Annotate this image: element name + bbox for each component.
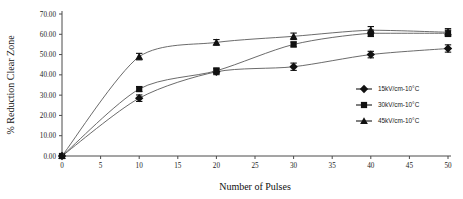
- y-tick-label: 60.00: [40, 31, 57, 39]
- x-axis-tick-group: 05101520253035404550: [60, 156, 452, 170]
- x-tick-label: 40: [367, 162, 375, 170]
- x-tick-label: 45: [406, 162, 414, 170]
- marker-diamond: [360, 85, 368, 93]
- x-tick-label: 20: [213, 162, 221, 170]
- y-tick-label: 10.00: [40, 132, 57, 140]
- series-layer: [58, 26, 452, 160]
- y-tick-label: 40.00: [40, 71, 57, 79]
- chart-legend: 15kV/cm-10°C30kV/cm-10°C45kV/cm-10°C: [356, 85, 420, 124]
- x-axis-title: Number of Pulses: [219, 181, 291, 192]
- legend-label: 15kV/cm-10°C: [378, 85, 420, 92]
- marker-square: [291, 41, 297, 47]
- x-tick-label: 25: [251, 162, 259, 170]
- x-tick-label: 35: [329, 162, 337, 170]
- y-tick-label: 20.00: [40, 112, 57, 120]
- series-line: [62, 30, 448, 156]
- marker-diamond: [444, 44, 452, 52]
- series-3: [58, 26, 452, 159]
- series-2: [59, 30, 451, 159]
- x-tick-label: 15: [174, 162, 182, 170]
- chart-figure: 0.0010.0020.0030.0040.0050.0060.0070.00 …: [0, 0, 463, 199]
- x-tick-label: 5: [99, 162, 103, 170]
- y-axis-tick-group: 0.0010.0020.0030.0040.0050.0060.0070.00: [40, 11, 62, 161]
- marker-square: [136, 86, 142, 92]
- y-tick-label: 0.00: [43, 153, 56, 161]
- x-tick-label: 10: [136, 162, 144, 170]
- marker-square: [213, 68, 219, 74]
- legend-label: 30kV/cm-10°C: [378, 101, 420, 108]
- y-axis-title: % Reduction Clear Zone: [5, 35, 16, 135]
- y-tick-label: 50.00: [40, 51, 57, 59]
- x-tick-label: 50: [444, 162, 452, 170]
- legend-item-1: 15kV/cm-10°C: [356, 85, 420, 93]
- marker-square: [361, 102, 367, 108]
- series-line: [62, 33, 448, 156]
- line-chart: 0.0010.0020.0030.0040.0050.0060.0070.00 …: [0, 0, 463, 199]
- x-tick-label: 0: [60, 162, 64, 170]
- legend-item-2: 30kV/cm-10°C: [356, 101, 420, 108]
- y-tick-label: 70.00: [40, 11, 57, 19]
- y-tick-label: 30.00: [40, 92, 57, 100]
- legend-item-3: 45kV/cm-10°C: [356, 117, 420, 124]
- x-tick-label: 30: [290, 162, 298, 170]
- marker-diamond: [289, 63, 297, 71]
- legend-label: 45kV/cm-10°C: [378, 117, 420, 124]
